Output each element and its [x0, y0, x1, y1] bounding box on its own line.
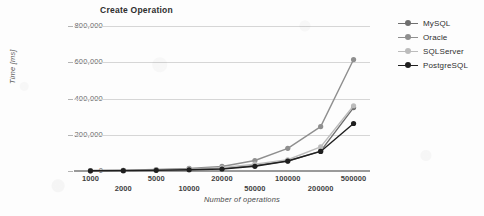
legend-label: PostgreSQL	[423, 61, 468, 70]
data-point	[351, 57, 356, 62]
data-point	[285, 146, 290, 151]
legend-item-mysql[interactable]: MySQL	[398, 17, 468, 29]
data-point	[121, 168, 126, 173]
y-axis-tick-mark	[68, 171, 73, 172]
y-axis-tick-mark	[68, 26, 73, 27]
series-layer	[74, 26, 370, 178]
data-point	[318, 124, 323, 129]
x-axis-tick-label: 10000	[178, 184, 199, 193]
legend-label: MySQL	[423, 19, 450, 28]
data-point	[154, 168, 159, 173]
data-point	[318, 149, 323, 154]
x-axis-tick-label: 50000	[244, 184, 265, 193]
x-axis-tick-label: 20000	[211, 174, 232, 183]
y-axis-tick-mark	[68, 62, 73, 63]
legend-item-oracle[interactable]: Oracle	[398, 31, 468, 43]
data-point	[351, 121, 356, 126]
legend-item-postgresql[interactable]: PostgreSQL	[398, 59, 468, 71]
data-point	[318, 144, 323, 149]
chart-figure: Create Operation Time [ms] 800,000600,00…	[0, 0, 484, 216]
x-axis-tick-label: 100000	[275, 174, 301, 183]
legend-item-sqlserver[interactable]: SQLServer	[398, 45, 468, 57]
series-line-mysql	[90, 108, 353, 171]
legend-swatch-icon	[398, 19, 418, 28]
data-point	[187, 167, 192, 172]
legend: MySQLOracleSQLServerPostgreSQL	[398, 17, 468, 73]
legend-swatch-icon	[398, 33, 418, 42]
y-axis-title: Time [ms]	[8, 49, 17, 84]
data-point	[252, 164, 257, 169]
data-point	[88, 168, 93, 173]
x-axis-tick-label: 500000	[341, 174, 367, 183]
x-axis-tick-label: 200000	[308, 184, 334, 193]
x-axis-title: Number of operations	[0, 195, 484, 204]
data-point	[219, 166, 224, 171]
x-axis-tick-label: 2000	[115, 184, 132, 193]
legend-label: SQLServer	[423, 47, 464, 56]
series-line-sqlserver	[90, 106, 353, 171]
y-axis-tick-mark	[68, 135, 73, 136]
legend-swatch-icon	[398, 61, 418, 70]
data-point	[351, 103, 356, 108]
data-point	[285, 158, 290, 163]
x-axis-tick-label: 5000	[148, 174, 165, 183]
y-axis-tick-mark	[68, 99, 73, 100]
chart-title: Create Operation	[100, 5, 173, 15]
legend-label: Oracle	[423, 33, 447, 42]
legend-swatch-icon	[398, 47, 418, 56]
x-axis-tick-label: 1000	[82, 174, 99, 183]
